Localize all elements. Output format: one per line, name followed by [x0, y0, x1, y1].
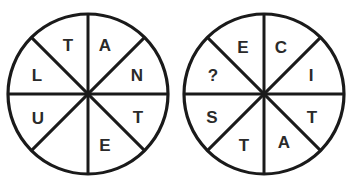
right-sector-4: T: [307, 108, 318, 127]
left-center-hub: [85, 91, 91, 97]
right-sector-8-missing: ?: [208, 66, 218, 85]
puzzle-canvas: T A N T E U L E C I T A T S ?: [0, 0, 352, 182]
right-center-hub: [261, 91, 267, 97]
right-sector-1: E: [237, 38, 248, 57]
right-sector-3: I: [309, 66, 314, 85]
left-sector-5: E: [99, 136, 110, 155]
left-sector-1: T: [63, 36, 74, 55]
right-sector-2: C: [275, 38, 287, 57]
left-sector-2: A: [99, 36, 111, 55]
right-sector-6: T: [239, 136, 250, 155]
left-sector-7: U: [32, 109, 44, 128]
left-circle: T A N T E U L: [8, 14, 168, 174]
left-sector-4: T: [133, 108, 144, 127]
right-sector-5: A: [278, 133, 290, 152]
right-circle: E C I T A T S ?: [184, 14, 344, 174]
left-sector-8: L: [32, 66, 42, 85]
right-sector-7: S: [206, 108, 217, 127]
left-sector-3: N: [131, 66, 143, 85]
